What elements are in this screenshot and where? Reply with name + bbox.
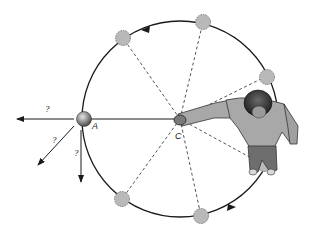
question-down: ? (74, 148, 79, 158)
possible-paths (17, 119, 81, 182)
direction-arrow-bottom (227, 204, 236, 211)
label-a: A (92, 121, 98, 131)
person-figure (174, 90, 298, 175)
ball-a (77, 112, 92, 127)
circular-motion-figure (0, 0, 312, 239)
diagram: A C ? ? ? (0, 0, 312, 239)
question-left: ? (45, 104, 50, 114)
question-diagonal: ? (52, 135, 57, 145)
label-c: C (175, 131, 182, 141)
